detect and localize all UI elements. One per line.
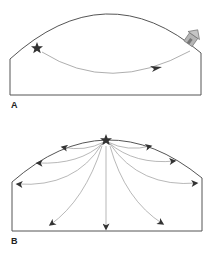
panel-label-a: A [11, 100, 18, 110]
panel-b [12, 134, 202, 231]
panel-a [10, 14, 203, 95]
dome-outline-b [12, 140, 202, 231]
panel-label-b: B [11, 236, 18, 246]
diagram-canvas [0, 0, 212, 253]
dome-outline-a [10, 14, 201, 95]
